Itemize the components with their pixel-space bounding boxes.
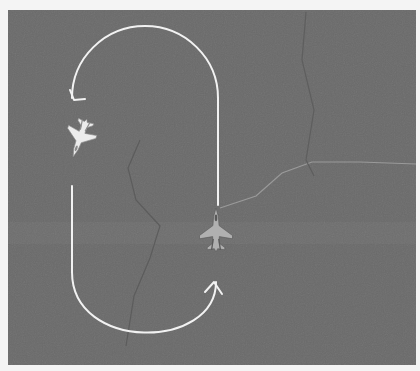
map-canvas (8, 10, 416, 365)
terrain-noise (8, 10, 416, 365)
diagram-stage (0, 0, 420, 371)
map-frame (8, 10, 416, 365)
